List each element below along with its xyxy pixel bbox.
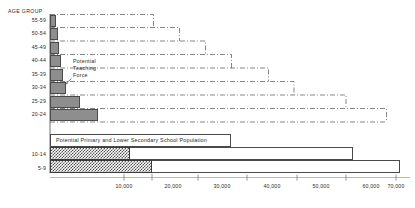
- x-tick-label-30000: 30,000: [204, 183, 240, 189]
- x-tick-label-50000: 50,000: [303, 183, 339, 189]
- x-tick-label-40000: 40,000: [254, 183, 290, 189]
- chart-canvas: AGE GROUP 55-59 50-54 45-49 40-44 35-39 …: [0, 0, 415, 208]
- x-axis: [0, 0, 415, 208]
- x-tick-label-20000: 20,000: [155, 183, 191, 189]
- x-tick-label-10000: 10,000: [106, 183, 142, 189]
- x-tick-label-70000: 70,000: [378, 183, 414, 189]
